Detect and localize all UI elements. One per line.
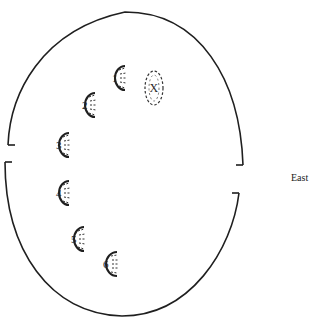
footprint-4-label: 4 (56, 187, 62, 199)
footprint-1-label: 1 (112, 72, 118, 84)
footprint-1: 1 (112, 66, 126, 90)
footprint-3-label: 3 (56, 139, 62, 151)
target-marker: X (145, 71, 163, 105)
footprint-2-label: 2 (82, 99, 88, 111)
diagram-canvas: 1 2 3 4 5 (0, 0, 313, 326)
footprint-6-label: 6 (103, 258, 109, 270)
footprint-6: 6 (103, 252, 118, 276)
footprint-5-label: 5 (71, 233, 77, 245)
direction-label-east: East (291, 172, 308, 183)
target-label: X (150, 81, 159, 95)
footprint-5: 5 (71, 227, 85, 251)
footprint-4: 4 (56, 181, 70, 205)
footprint-2: 2 (82, 93, 96, 117)
footprint-3: 3 (56, 133, 70, 157)
enclosure-outline (5, 12, 243, 316)
